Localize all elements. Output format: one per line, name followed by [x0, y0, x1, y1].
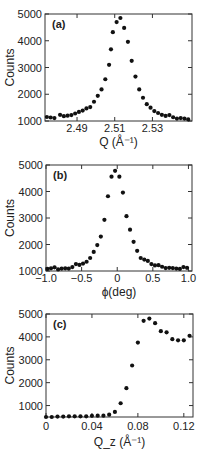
- data-point: [101, 414, 105, 418]
- panel-label: (a): [52, 18, 66, 30]
- x-tick-label: 0: [43, 420, 49, 432]
- data-point: [174, 267, 178, 271]
- plot-frame: [46, 165, 192, 271]
- data-point: [81, 261, 85, 265]
- data-point: [167, 266, 171, 270]
- data-point: [61, 414, 65, 418]
- data-point: [84, 414, 88, 418]
- data-point: [171, 266, 175, 270]
- panel-label: (c): [53, 318, 67, 330]
- data-point: [182, 116, 186, 120]
- data-point: [88, 256, 92, 260]
- three-panel-scatter-figure: 2.492.512.5310002000300040005000CountsQ …: [0, 0, 201, 459]
- plot-frame: [45, 14, 192, 121]
- data-point: [84, 260, 88, 264]
- data-point: [178, 267, 182, 271]
- data-point: [60, 267, 64, 271]
- data-point: [92, 100, 96, 104]
- data-point: [88, 105, 92, 109]
- data-point: [170, 337, 174, 341]
- data-point: [153, 263, 157, 267]
- y-axis-label: Counts: [3, 48, 17, 86]
- data-point: [124, 386, 128, 390]
- x-tick-label: 0: [114, 272, 120, 284]
- data-point: [62, 114, 66, 118]
- figure: 2.492.512.5310002000300040005000CountsQ …: [0, 0, 201, 459]
- data-point: [102, 218, 106, 222]
- data-point: [171, 115, 175, 119]
- panel-a: 2.492.512.5310002000300040005000CountsQ …: [3, 8, 192, 149]
- data-point: [118, 16, 122, 20]
- data-point: [111, 30, 115, 34]
- x-tick-label: 1.0: [181, 272, 196, 284]
- data-point: [67, 414, 71, 418]
- x-tick-label: 2.51: [104, 122, 125, 134]
- data-point: [109, 175, 113, 179]
- x-tick-label: 0.12: [173, 420, 194, 432]
- data-point: [52, 265, 56, 269]
- y-tick-label: 4000: [18, 35, 42, 47]
- data-point: [141, 96, 145, 100]
- y-tick-label: 5000: [19, 308, 43, 320]
- data-point: [49, 115, 53, 119]
- data-point: [130, 363, 134, 367]
- data-point: [176, 338, 180, 342]
- y-tick-label: 5000: [18, 8, 42, 20]
- data-point: [153, 321, 157, 325]
- data-point: [78, 414, 82, 418]
- x-tick-label: 0.08: [127, 420, 148, 432]
- x-tick-label: 0.5: [145, 272, 160, 284]
- data-point: [56, 267, 60, 271]
- data-point: [113, 410, 117, 414]
- data-point: [175, 116, 179, 120]
- data-point: [45, 267, 49, 271]
- data-point: [133, 74, 137, 78]
- data-point: [185, 266, 189, 270]
- data-point: [115, 20, 119, 24]
- data-point: [122, 26, 126, 30]
- data-point: [147, 316, 151, 320]
- data-point: [145, 102, 149, 106]
- data-point: [84, 106, 88, 110]
- data-point: [55, 414, 59, 418]
- data-point: [148, 106, 152, 110]
- y-tick-label: 1000: [19, 400, 43, 412]
- data-point: [44, 415, 48, 419]
- data-point: [167, 113, 171, 117]
- data-point: [119, 401, 123, 405]
- y-tick-label: 3000: [19, 212, 43, 224]
- data-point: [58, 113, 62, 117]
- y-tick-label: 2000: [19, 377, 43, 389]
- y-axis-label: Counts: [3, 199, 17, 237]
- data-point: [73, 414, 77, 418]
- y-tick-label: 1000: [18, 115, 42, 127]
- data-point: [99, 87, 103, 91]
- data-point: [117, 175, 121, 179]
- data-point: [95, 243, 99, 247]
- y-tick-label: 5000: [19, 159, 43, 171]
- data-point: [66, 114, 70, 118]
- data-point: [135, 249, 139, 253]
- data-point: [113, 169, 117, 173]
- data-point: [106, 194, 110, 198]
- x-tick-label: −0.5: [71, 272, 93, 284]
- data-point: [137, 87, 141, 91]
- data-point: [128, 228, 132, 232]
- data-point: [179, 116, 183, 120]
- data-point: [186, 117, 190, 121]
- data-point: [81, 108, 85, 112]
- y-axis-label: Counts: [3, 346, 17, 384]
- y-tick-label: 2000: [18, 88, 42, 100]
- x-axis-label: ϕ(deg): [102, 285, 137, 299]
- data-point: [160, 113, 164, 117]
- data-point: [96, 94, 100, 98]
- data-point: [164, 330, 168, 334]
- x-axis-label: Q_z (Å⁻¹): [94, 434, 145, 449]
- data-point: [159, 329, 163, 333]
- data-point: [164, 114, 168, 118]
- data-point: [45, 115, 49, 119]
- y-tick-label: 2000: [19, 239, 43, 251]
- data-point: [126, 40, 130, 44]
- data-point: [107, 413, 111, 417]
- data-point: [77, 110, 81, 114]
